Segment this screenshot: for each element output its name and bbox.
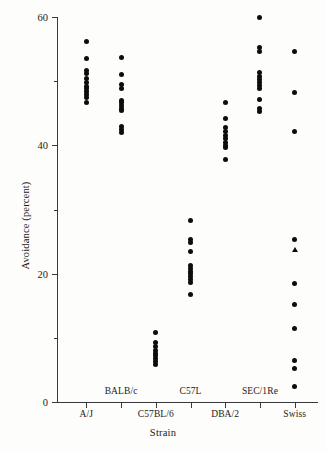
x-tick-label-C57L: C57L (179, 386, 201, 396)
data-point (119, 108, 124, 113)
y-tick-minor-50 (54, 81, 57, 82)
data-point (119, 55, 124, 60)
data-point (84, 100, 89, 105)
x-tick-label-BALB/c: BALB/c (105, 386, 138, 396)
y-tick-minor-30 (54, 210, 57, 211)
x-tick-label-Swiss: Swiss (283, 409, 306, 419)
data-point (119, 72, 124, 77)
data-point (84, 39, 89, 44)
data-point (292, 247, 298, 252)
x-tick-C57L (191, 403, 192, 408)
y-tick-minor-10 (54, 338, 57, 339)
x-axis-title: Strain (0, 427, 326, 438)
data-point (292, 237, 297, 242)
x-tick-C57BL/6 (156, 403, 157, 408)
x-tick-label-DBA/2: DBA/2 (211, 409, 239, 419)
plot-area: 0204060 A/JBALB/cC57BL/6C57LDBA/2SEC/1Re… (57, 17, 318, 403)
data-point (292, 326, 297, 331)
data-point (292, 366, 297, 371)
scatter-plot-figure: Avoidance (percent) 0204060 A/JBALB/cC57… (0, 0, 326, 451)
data-point (257, 86, 262, 91)
data-point (257, 49, 262, 54)
data-point (188, 249, 193, 254)
data-point (119, 86, 124, 91)
data-point (119, 130, 124, 135)
y-tick-label-40: 40 (38, 140, 49, 151)
y-tick-0: 0 (52, 402, 57, 403)
y-axis-title: Avoidance (percent) (22, 0, 44, 451)
x-tick-label-C57BL/6: C57BL/6 (138, 409, 174, 419)
data-point (153, 330, 158, 335)
data-point (292, 129, 297, 134)
y-axis-line (57, 17, 58, 403)
y-tick-label-60: 60 (38, 12, 49, 23)
y-axis-title-text: Avoidance (percent) (20, 181, 31, 269)
y-tick-20: 20 (52, 274, 57, 275)
data-point (223, 145, 228, 150)
y-tick-label-20: 20 (38, 268, 49, 279)
data-point (292, 90, 297, 95)
data-point (257, 109, 262, 114)
y-tick-40: 40 (52, 145, 57, 146)
data-point (292, 49, 297, 54)
y-tick-60: 60 (52, 17, 57, 18)
x-tick-SEC/1Re (260, 403, 261, 408)
data-point (292, 358, 297, 363)
data-point (188, 218, 193, 223)
x-tick-DBA/2 (225, 403, 226, 408)
y-tick-label-0: 0 (43, 397, 48, 408)
data-point (257, 97, 262, 102)
data-point (223, 116, 228, 121)
x-axis-title-text: Strain (150, 427, 176, 438)
x-tick-label-SEC/1Re: SEC/1Re (242, 386, 278, 396)
x-tick-BALB/c (121, 403, 122, 408)
data-point (292, 302, 297, 307)
data-point (188, 240, 193, 245)
data-point (153, 362, 158, 367)
x-tick-A/J (86, 403, 87, 408)
x-tick-Swiss (295, 403, 296, 408)
data-point (292, 281, 297, 286)
x-tick-label-A/J: A/J (80, 409, 94, 419)
data-point (188, 292, 193, 297)
data-point (223, 157, 228, 162)
x-axis-line (57, 402, 318, 403)
data-point (257, 15, 262, 20)
data-point (188, 280, 193, 285)
data-point (223, 100, 228, 105)
data-point (84, 56, 89, 61)
data-point (292, 384, 297, 389)
